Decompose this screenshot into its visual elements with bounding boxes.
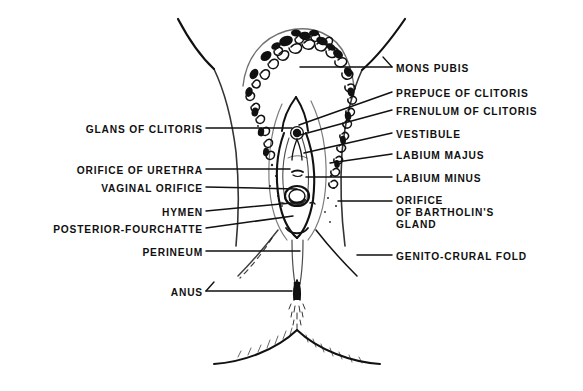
genito-crural-fold-right [316, 230, 357, 276]
gluteal-curve [214, 328, 380, 364]
urethral-orifice [292, 171, 303, 173]
genito-crural-fold-left [238, 230, 278, 276]
label-labium-minus: LABIUM MINUS [396, 173, 481, 185]
glans-dot [293, 129, 301, 137]
anatomical-figure [0, 0, 583, 391]
label-orifice-of-urethra: ORIFICE OF URETHRA [0, 165, 203, 177]
label-mons-pubis: MONS PUBIS [396, 63, 469, 75]
body-contours [178, 19, 405, 246]
label-hymen: HYMEN [0, 207, 203, 219]
label-anus: ANUS [0, 287, 203, 299]
label-perineum: PERINEUM [0, 247, 203, 259]
perineum-and-anus [238, 228, 357, 329]
label-orifice-of-bartholins-gland: ORIFICE OF BARTHOLIN'S GLAND [396, 195, 494, 232]
leader-labium-majus [330, 154, 392, 163]
label-vaginal-orifice: VAGINAL ORIFICE [0, 183, 203, 195]
diagram-page: GLANS OF CLITORIS ORIFICE OF URETHRA VAG… [0, 0, 583, 391]
mons-pubis-hair [243, 29, 356, 223]
label-frenulum-of-clitoris: FRENULUM OF CLITORIS [396, 106, 537, 118]
vestibule-and-orifices [279, 156, 315, 206]
leader-posterior-fourchatte [206, 216, 293, 228]
label-posterior-fourchatte: POSTERIOR-FOURCHATTE [0, 224, 203, 236]
label-genito-crural-fold: GENITO-CRURAL FOLD [396, 251, 527, 263]
leader-hymen [206, 202, 302, 211]
leader-prepuce-of-clitoris [299, 92, 392, 125]
label-vestibule: VESTIBULE [396, 129, 461, 141]
leader-lines-left [206, 128, 302, 291]
label-labium-majus: LABIUM MAJUS [396, 150, 484, 162]
label-prepuce-of-clitoris: PREPUCE OF CLITORIS [396, 88, 529, 100]
label-glans-of-clitoris: GLANS OF CLITORIS [0, 124, 203, 136]
